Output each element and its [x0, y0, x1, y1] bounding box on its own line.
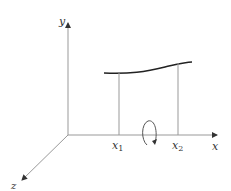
x-axis-label: x: [212, 140, 219, 153]
function-curve: [104, 62, 192, 73]
solid-of-revolution-diagram: y x z x1 x2: [0, 0, 231, 191]
x2-label: x2: [172, 139, 183, 153]
y-axis-label: y: [58, 15, 66, 28]
x1-label: x1: [112, 139, 123, 153]
z-axis: [22, 135, 68, 180]
z-axis-label: z: [10, 180, 17, 191]
rotation-arrowhead-icon: [152, 139, 157, 145]
